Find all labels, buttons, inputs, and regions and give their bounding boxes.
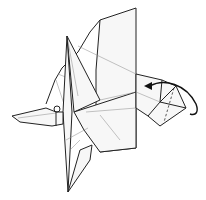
front-wing: [67, 36, 100, 112]
head-curl: [54, 106, 60, 112]
origami-figure: [0, 0, 206, 200]
lower-tail: [68, 145, 92, 192]
left-head: [12, 108, 63, 126]
crease: [70, 140, 80, 150]
origami-diagram: [0, 0, 206, 200]
right-flap: [136, 74, 186, 126]
